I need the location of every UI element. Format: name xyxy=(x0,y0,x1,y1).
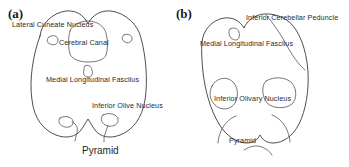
label-pyramid: Pyramid xyxy=(229,136,256,145)
panel-b-tag: (b) xyxy=(176,6,192,22)
inferior-olive-nucleus-left-a xyxy=(59,117,73,128)
panel-b-drawing xyxy=(174,0,349,167)
caption-pyramid-a: Pyramid xyxy=(82,145,119,156)
label-inferior-cerebellar-peduncle: Inferior Cerebellar Peduncle xyxy=(246,13,338,22)
pyramid-tract-left-a xyxy=(72,122,77,141)
label-medial-longitudinal-fasciculus: Medial Longitudinal Fascilus xyxy=(46,75,139,84)
midline-notch-b xyxy=(244,146,272,155)
medulla-outline-b xyxy=(202,14,309,143)
figure-root: (a) Lateral Cuneate Nucleus Cerebral Can… xyxy=(0,0,349,167)
inferior-olivary-nucleus-right-b xyxy=(263,78,296,108)
lateral-cuneate-nucleus-right-a xyxy=(122,34,132,43)
panel-b: (b) Inferior Cerebellar Peduncle Medial … xyxy=(174,0,349,167)
medulla-outline-a xyxy=(31,11,146,137)
label-lateral-cuneate-nucleus: Lateral Cuneate Nucleus xyxy=(12,20,93,29)
label-inferior-olivary-nucleus: Inferior Olivary Nucleus xyxy=(214,94,291,103)
label-inferior-olive-nucleus: Inferior Olive Nucleus xyxy=(92,101,163,110)
pyramid-tract-right-a xyxy=(104,126,108,142)
lateral-cuneate-nucleus-a xyxy=(47,36,58,45)
inferior-olive-nucleus-right-a xyxy=(101,114,118,127)
panel-a: (a) Lateral Cuneate Nucleus Cerebral Can… xyxy=(0,0,175,167)
label-cerebral-canal: Cerebral Canal xyxy=(59,38,109,47)
label-medial-longitudinal-fasciculus: Medial Longitudinal Fascilus xyxy=(200,39,293,48)
